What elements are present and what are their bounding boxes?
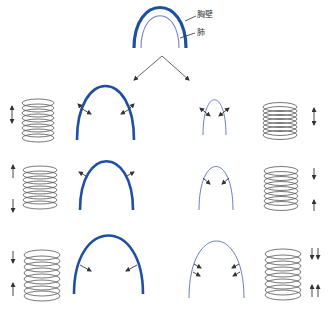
- lung-arch: [141, 16, 179, 48]
- double-arrows-together-icon: [312, 248, 318, 297]
- lung-leader-line: [180, 33, 195, 38]
- lung-arch: [203, 100, 226, 135]
- lung-chest-wall-diagram: 胸壁 肺: [0, 0, 328, 310]
- row-1: [12, 86, 314, 142]
- row-3: [13, 236, 318, 302]
- lung-arch: [199, 167, 233, 211]
- right-coil-spring-icon: [263, 103, 297, 140]
- left-coil-spring-icon: [23, 166, 57, 209]
- chest-wall-force-arrows: [78, 104, 134, 114]
- row-2: [13, 161, 314, 212]
- diagram-canvas: [0, 0, 328, 310]
- right-coil-spring-icon: [265, 249, 301, 300]
- lung-force-arrows: [203, 178, 229, 184]
- top-illustration: [134, 8, 196, 49]
- chest-wall-leader-line: [185, 16, 196, 21]
- lung-force-arrows: [193, 264, 240, 276]
- chest-wall-label: 胸壁: [197, 11, 213, 19]
- chest-wall-force-arrows: [80, 265, 137, 271]
- left-coil-spring-icon: [22, 99, 54, 142]
- lung-arch: [189, 241, 244, 298]
- lung-label: 肺: [197, 29, 205, 37]
- chest-wall-arch: [80, 161, 133, 210]
- right-coil-spring-icon: [264, 167, 298, 211]
- branch-arrows: [134, 56, 189, 80]
- chest-wall-arch: [74, 236, 143, 295]
- chest-wall-arch: [77, 86, 134, 140]
- left-coil-spring-icon: [24, 250, 60, 301]
